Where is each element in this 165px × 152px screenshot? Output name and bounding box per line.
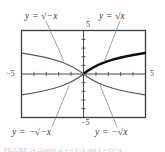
label-tr-text: y = √x [99, 11, 125, 21]
axis-label-bottom: −5 [81, 118, 90, 127]
figure-caption: FIGURE 14 Graphs of y = ±√x and y = ±√−x [4, 146, 162, 152]
label-neg-sqrt-x: y = −√x [95, 128, 128, 138]
label-neg-sqrt-neg-x: y = −√−x [12, 128, 51, 138]
axis-label-right: 5 [150, 69, 154, 78]
label-sqrt-neg-x: y = √−x [25, 12, 58, 22]
label-br-text: y = −√x [95, 127, 128, 137]
label-sqrt-x: y = √x [99, 12, 125, 22]
axis-label-top: 5 [86, 20, 90, 29]
label-tl-text: y = √−x [25, 11, 58, 21]
axis-label-left: −5 [6, 69, 15, 78]
label-bl-text: y = −√−x [12, 127, 51, 137]
